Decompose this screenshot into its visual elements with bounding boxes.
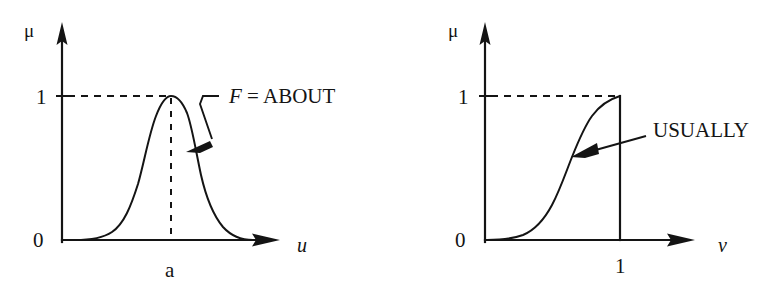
right-y-tick-one-label: 1 — [458, 85, 469, 109]
right-y-axis-label: μ — [448, 20, 458, 41]
right-y-axis — [480, 22, 491, 242]
right-sigmoid-curve — [487, 96, 620, 240]
right-x-axis-label: v — [718, 234, 727, 256]
right-x-axis-arrowhead — [667, 234, 695, 247]
right-x-axis — [485, 234, 695, 247]
right-x-tick-one-label: 1 — [615, 254, 626, 278]
membership-function-figure: μ 1 0 u a F = ABOUT — [0, 0, 783, 288]
right-y-tick-zero-label: 0 — [455, 228, 466, 252]
right-chart: μ 1 0 v 1 USUALLY — [0, 0, 783, 288]
right-annotation-leader — [571, 136, 646, 158]
right-annotation-text: USUALLY — [653, 118, 749, 142]
